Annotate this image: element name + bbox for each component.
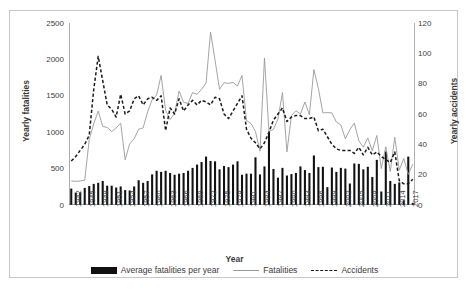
bar — [232, 165, 234, 205]
x-axis-tick-label: 1984 — [263, 190, 272, 207]
solid-line-swatch-icon — [233, 270, 259, 271]
x-axis-tick-label: 1993 — [303, 190, 312, 207]
x-axis-tick-label: 1951 — [115, 190, 124, 207]
bar — [178, 174, 180, 205]
y-axis-left-tick-label: 1000 — [30, 128, 64, 137]
bar — [165, 171, 167, 205]
x-axis-title: Year — [10, 254, 459, 264]
x-axis-tick-label: 2014 — [398, 190, 407, 207]
chart-legend: Average fatalities per year Fatalities A… — [10, 265, 459, 275]
x-axis-tick-label: 1969 — [196, 190, 205, 207]
x-axis-tick-label: 1987 — [276, 190, 285, 207]
bar — [367, 167, 369, 205]
y-axis-left-title: Yearly fatalities — [21, 71, 31, 151]
legend-label: Fatalities — [263, 265, 297, 275]
bar — [219, 169, 221, 205]
x-axis-tick-label: 2002 — [344, 190, 353, 207]
y-axis-right-tick-label: 100 — [418, 49, 452, 58]
bar — [353, 164, 355, 206]
x-axis-tick-label: 1954 — [128, 190, 137, 207]
bar — [394, 184, 396, 205]
legend-label: Accidents — [341, 265, 378, 275]
bar — [111, 186, 113, 205]
x-axis-tick-label: 1996 — [317, 190, 326, 207]
bar — [245, 174, 247, 205]
y-axis-right-tick-label: 80 — [418, 79, 452, 88]
y-axis-left-tick-label: 0 — [30, 201, 64, 210]
y-axis-right-tick-label: 20 — [418, 170, 452, 179]
y-axis-right-tick-label: 60 — [418, 110, 452, 119]
legend-label: Average fatalities per year — [121, 265, 220, 275]
x-axis-tick-label: 1999 — [330, 190, 339, 207]
x-axis-tick-label: 1942 — [74, 190, 83, 207]
y-axis-left-tick-label: 2500 — [30, 19, 64, 28]
bar — [286, 176, 288, 205]
y-axis-left-tick-label: 2000 — [30, 55, 64, 64]
bar — [97, 183, 99, 205]
y-axis-left-tick-label: 1500 — [30, 91, 64, 100]
bar — [340, 168, 342, 205]
x-axis-tick-label: 1975 — [223, 190, 232, 207]
x-axis-tick-label: 2008 — [371, 190, 380, 207]
x-axis-tick-labels: 1942194519481951195419571960196319661969… — [69, 207, 415, 251]
bar — [192, 168, 194, 205]
chart-frame: Yearly fatalities Yearly accidents Year … — [9, 10, 458, 278]
bar — [151, 174, 153, 205]
plot-svg — [69, 23, 415, 205]
plot-area — [69, 23, 415, 205]
bar — [380, 192, 382, 205]
x-axis-tick-label: 1978 — [236, 190, 245, 207]
legend-item-average-fatalities-per-year: Average fatalities per year — [91, 265, 220, 275]
legend-item-fatalities: Fatalities — [233, 265, 297, 275]
x-axis-tick-label: 1945 — [88, 190, 97, 207]
y-axis-right-tick-label: 0 — [418, 201, 452, 210]
figure: Yearly fatalities Yearly accidents Year … — [0, 0, 469, 292]
y-axis-left-tick-label: 500 — [30, 164, 64, 173]
bar — [313, 156, 315, 206]
x-axis-tick-label: 1981 — [249, 190, 258, 207]
bar — [299, 166, 301, 205]
bar — [124, 190, 126, 205]
x-axis-tick-label: 1960 — [155, 190, 164, 207]
x-axis-tick-label: 1963 — [169, 190, 178, 207]
y-axis-right-tick-label: 40 — [418, 140, 452, 149]
x-axis-tick-label: 1957 — [142, 190, 151, 207]
y-axis-right-tick-label: 120 — [418, 19, 452, 28]
bar — [138, 180, 140, 205]
x-axis-tick-label: 2011 — [384, 191, 393, 207]
x-axis-tick-label: 2005 — [357, 190, 366, 207]
bar-swatch-icon — [91, 267, 117, 274]
x-axis-tick-label: 1972 — [209, 190, 218, 207]
line-series-fatalities — [71, 32, 413, 181]
bar — [205, 157, 207, 205]
dashed-line-swatch-icon — [311, 270, 337, 271]
bar — [70, 189, 72, 205]
x-axis-tick-label: 2017 — [411, 190, 420, 207]
bar — [259, 174, 261, 205]
bar — [272, 169, 274, 205]
x-axis-tick-label: 1990 — [290, 190, 299, 207]
bar — [326, 187, 328, 205]
x-axis-tick-label: 1966 — [182, 190, 191, 207]
bar — [84, 188, 86, 205]
bar — [407, 157, 409, 205]
legend-item-accidents: Accidents — [311, 265, 378, 275]
x-axis-tick-label: 1948 — [101, 190, 110, 207]
